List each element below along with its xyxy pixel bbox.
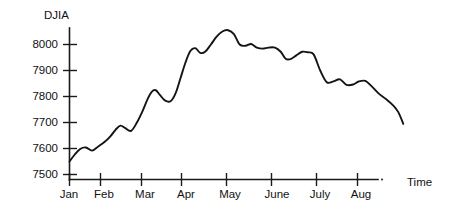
x-axis-title: Time <box>407 176 432 188</box>
y-tick-label: 8000 <box>32 38 58 50</box>
x-tick-label: Jan <box>60 188 79 200</box>
chart-canvas: 8000 7900 7800 7700 7600 7500 Jan Feb Ma… <box>0 0 450 219</box>
y-tick-label: 7600 <box>32 142 58 154</box>
y-axis-tick-labels: 8000 7900 7800 7700 7600 7500 <box>32 38 58 180</box>
x-tick-label: Aug <box>351 188 371 200</box>
x-axis-tick-labels: Jan Feb Mar Apr May June July Aug <box>60 188 372 200</box>
y-tick-label: 7900 <box>32 64 58 76</box>
x-tick-label: Feb <box>94 188 114 200</box>
y-tick-label: 7700 <box>32 116 58 128</box>
y-tick-label: 7500 <box>32 168 58 180</box>
y-axis-title: DJIA <box>44 9 69 21</box>
x-tick-label: May <box>219 188 241 200</box>
djia-series-line <box>70 30 404 161</box>
y-tick-label: 7800 <box>32 90 58 102</box>
x-axis-end-dot <box>381 178 383 180</box>
x-tick-label: Apr <box>177 188 195 200</box>
x-tick-label: June <box>265 188 290 200</box>
djia-line-chart: 8000 7900 7800 7700 7600 7500 Jan Feb Ma… <box>0 0 450 219</box>
x-tick-label: Mar <box>135 188 155 200</box>
x-tick-label: July <box>310 188 331 200</box>
